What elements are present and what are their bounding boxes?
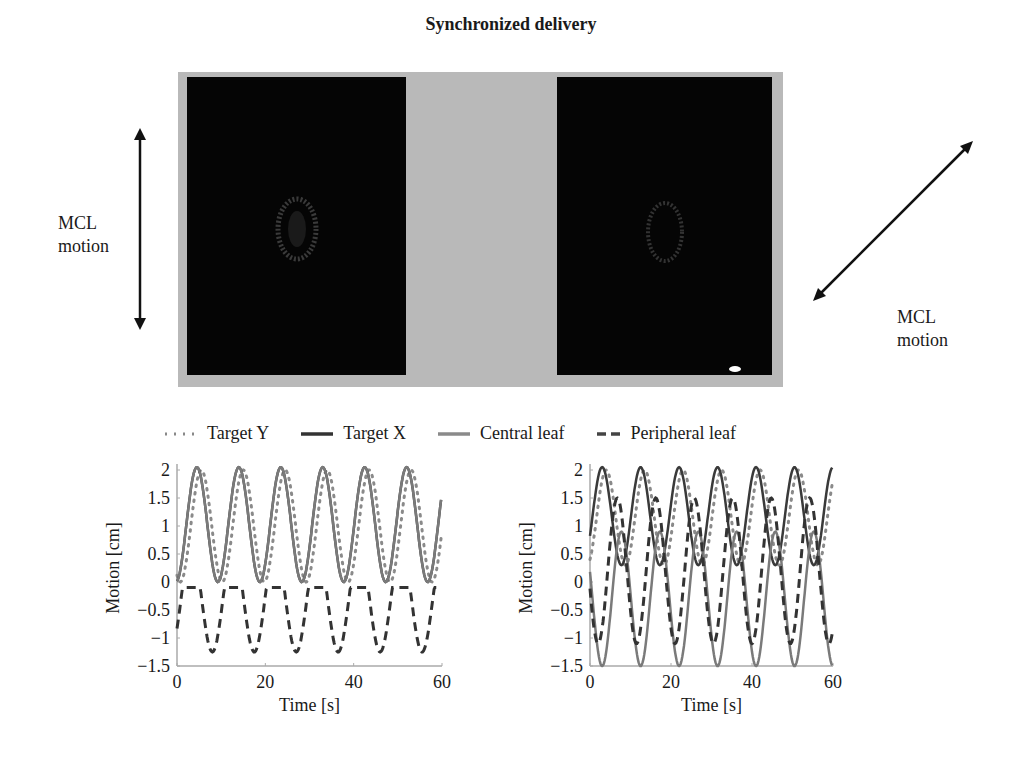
- x-tick-label: 20: [662, 672, 680, 692]
- y-tick-label: −1.5: [137, 656, 170, 676]
- y-tick-label: 2: [574, 460, 583, 480]
- x-tick-label: 60: [824, 672, 842, 692]
- y-tick-label: 0: [574, 572, 583, 592]
- y-tick-label: −0.5: [550, 600, 583, 620]
- y-axis-label: Motion [cm]: [103, 522, 123, 614]
- y-tick-label: 1.5: [561, 488, 584, 508]
- y-tick-label: 0: [161, 572, 170, 592]
- y-tick-label: 1: [161, 516, 170, 536]
- series-peripheral-leaf: [177, 588, 441, 652]
- y-tick-label: 0.5: [561, 544, 584, 564]
- y-tick-label: −1: [564, 628, 583, 648]
- x-tick-label: 0: [586, 672, 595, 692]
- x-axis-label: Time [s]: [279, 695, 340, 715]
- x-tick-label: 60: [433, 672, 451, 692]
- y-tick-label: −1: [151, 628, 170, 648]
- chart-1: −1.5−1−0.500.511.520204060Time [s]Motion…: [103, 460, 451, 715]
- x-tick-label: 40: [743, 672, 761, 692]
- chart-2: −1.5−1−0.500.511.520204060Time [s]Motion…: [516, 460, 842, 715]
- y-tick-label: 0.5: [148, 544, 171, 564]
- y-tick-label: 2: [161, 460, 170, 480]
- y-tick-label: −0.5: [137, 600, 170, 620]
- y-tick-label: 1.5: [148, 488, 171, 508]
- x-tick-label: 0: [173, 672, 182, 692]
- x-tick-label: 20: [256, 672, 274, 692]
- y-tick-label: −1.5: [550, 656, 583, 676]
- y-tick-label: 1: [574, 516, 583, 536]
- x-tick-label: 40: [345, 672, 363, 692]
- charts-area: −1.5−1−0.500.511.520204060Time [s]Motion…: [0, 0, 1022, 760]
- x-axis-label: Time [s]: [681, 695, 742, 715]
- y-axis-label: Motion [cm]: [516, 522, 536, 614]
